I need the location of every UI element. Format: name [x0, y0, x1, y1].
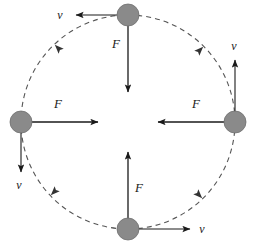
- ball-top: [117, 4, 139, 26]
- velocity-bottom-label: v: [199, 222, 205, 236]
- force-left-label: F: [53, 96, 63, 111]
- velocity-left-label: v: [16, 178, 22, 192]
- ball-right: [224, 111, 246, 133]
- circular-motion-diagram: F F F F v v v v: [0, 0, 259, 241]
- velocity-right-label: v: [231, 39, 237, 53]
- force-bottom-label: F: [134, 180, 144, 195]
- diagram-canvas: F F F F v v v v: [0, 0, 259, 241]
- path-arrow-upper-left-icon: [52, 42, 63, 53]
- force-right-label: F: [191, 96, 201, 111]
- velocity-top-label: v: [57, 8, 63, 22]
- force-top-label: F: [111, 36, 121, 51]
- ball-bottom: [117, 218, 139, 240]
- ball-left: [10, 111, 32, 133]
